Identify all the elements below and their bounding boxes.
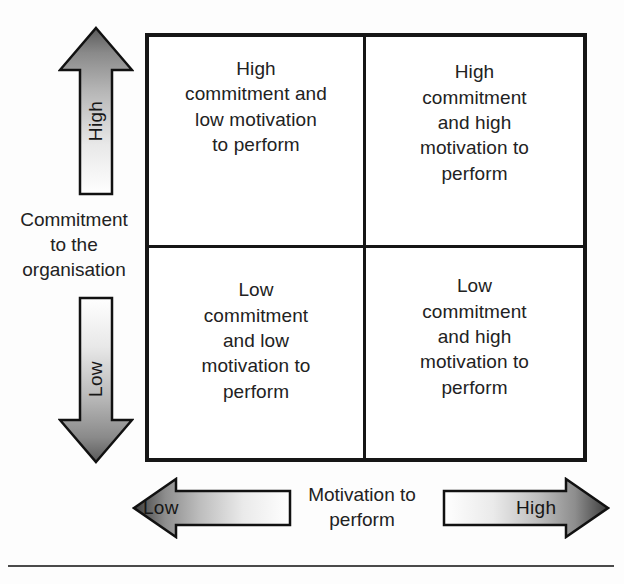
diagram-page: High commitment and low motivation to pe… [0,0,624,584]
left-arrow-icon [132,477,292,539]
quadrant-high-commitment-low-motivation: High commitment and low motivation to pe… [149,37,366,248]
quadrant-low-commitment-high-motivation: Low commitment and high motivation to pe… [366,248,583,459]
quadrant-high-commitment-high-motivation: High commitment and high motivation to p… [366,37,583,248]
up-arrow-icon [58,26,134,196]
right-arrow-icon [442,477,610,539]
quadrant-text: Low commitment and low motivation to per… [201,277,310,404]
quadrant-low-commitment-low-motivation: Low commitment and low motivation to per… [149,248,366,459]
x-axis-label: Motivation to perform [292,482,432,532]
down-arrow-icon [58,296,134,464]
commitment-motivation-matrix: High commitment and low motivation to pe… [145,33,587,462]
quadrant-text: High commitment and low motivation to pe… [185,56,327,158]
quadrant-text: Low commitment and high motivation to pe… [420,273,529,400]
quadrant-text: High commitment and high motivation to p… [420,59,529,186]
page-divider [8,565,614,567]
y-axis-label: Commitment to the organisation [8,207,140,282]
